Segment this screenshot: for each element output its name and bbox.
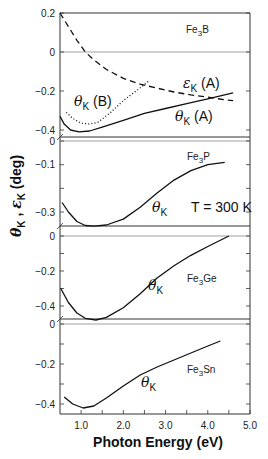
curve-label: θK (A) [175,108,213,127]
curve-label: εK (A) [183,75,220,94]
x-tick-label: 1.0 [74,420,88,431]
y-tick-label: 0.2 [41,8,55,19]
y-tick-label: 0 [49,231,55,242]
x-axis-title: Photon Energy (eV) [93,434,223,450]
y-tick-label: −0.2 [35,86,55,97]
panels-group: 0.20−0.2−0.4Fe3BεK (A)θK (B)θK (A)0−0.1−… [35,8,252,415]
y-tick-label: −0.4 [35,399,55,410]
panel-fe3p: 0−0.1−0.3Fe3PθKT = 300 K [35,136,252,230]
y-tick-label: −0.2 [35,359,55,370]
y-tick-label: 0 [49,136,55,147]
x-tick-label: 2.0 [116,420,130,431]
x-tick-label: 5.0 [243,420,257,431]
kerr-spectra-figure: 0.20−0.2−0.4Fe3BεK (A)θK (B)θK (A)0−0.1−… [0,0,268,459]
curve-label: θK [141,374,156,393]
compound-label: Fe3Sn [187,364,215,378]
x-tick-label: 4.0 [201,420,215,431]
y-tick-label: 0 [49,47,55,58]
x-axis: 1.02.03.04.05.0 [74,410,257,431]
y-tick-label: −0.2 [35,266,55,277]
y-axis-title: θK , εK (deg) [8,155,27,237]
y-tick-label: 0 [49,319,55,330]
y-tick-label: −0.1 [35,159,55,170]
panel-fe3sn: 0−0.2−0.4Fe3SnθK [35,319,250,415]
panel-fe3ge: 0−0.2−0.4Fe3GeθK [35,231,250,323]
temperature-annotation: T = 300 K [191,199,253,215]
x-tick-label: 3.0 [159,420,173,431]
panel-fe3b: 0.20−0.2−0.4Fe3BεK (A)θK (B)θK (A) [35,8,250,141]
y-tick-label: −0.3 [35,207,55,218]
series-solid-curve [62,162,225,226]
compound-label: Fe3Ge [187,273,217,287]
chart-canvas: 0.20−0.2−0.4Fe3BεK (A)θK (B)θK (A)0−0.1−… [0,0,268,459]
curve-label: θK [152,199,167,218]
y-tick-label: −0.4 [35,301,55,312]
curve-label: θK (B) [74,93,112,112]
curve-label: θK [148,277,163,296]
y-tick-label: −0.4 [35,125,55,136]
compound-label: Fe3B [186,24,209,38]
compound-label: Fe3P [187,151,210,165]
